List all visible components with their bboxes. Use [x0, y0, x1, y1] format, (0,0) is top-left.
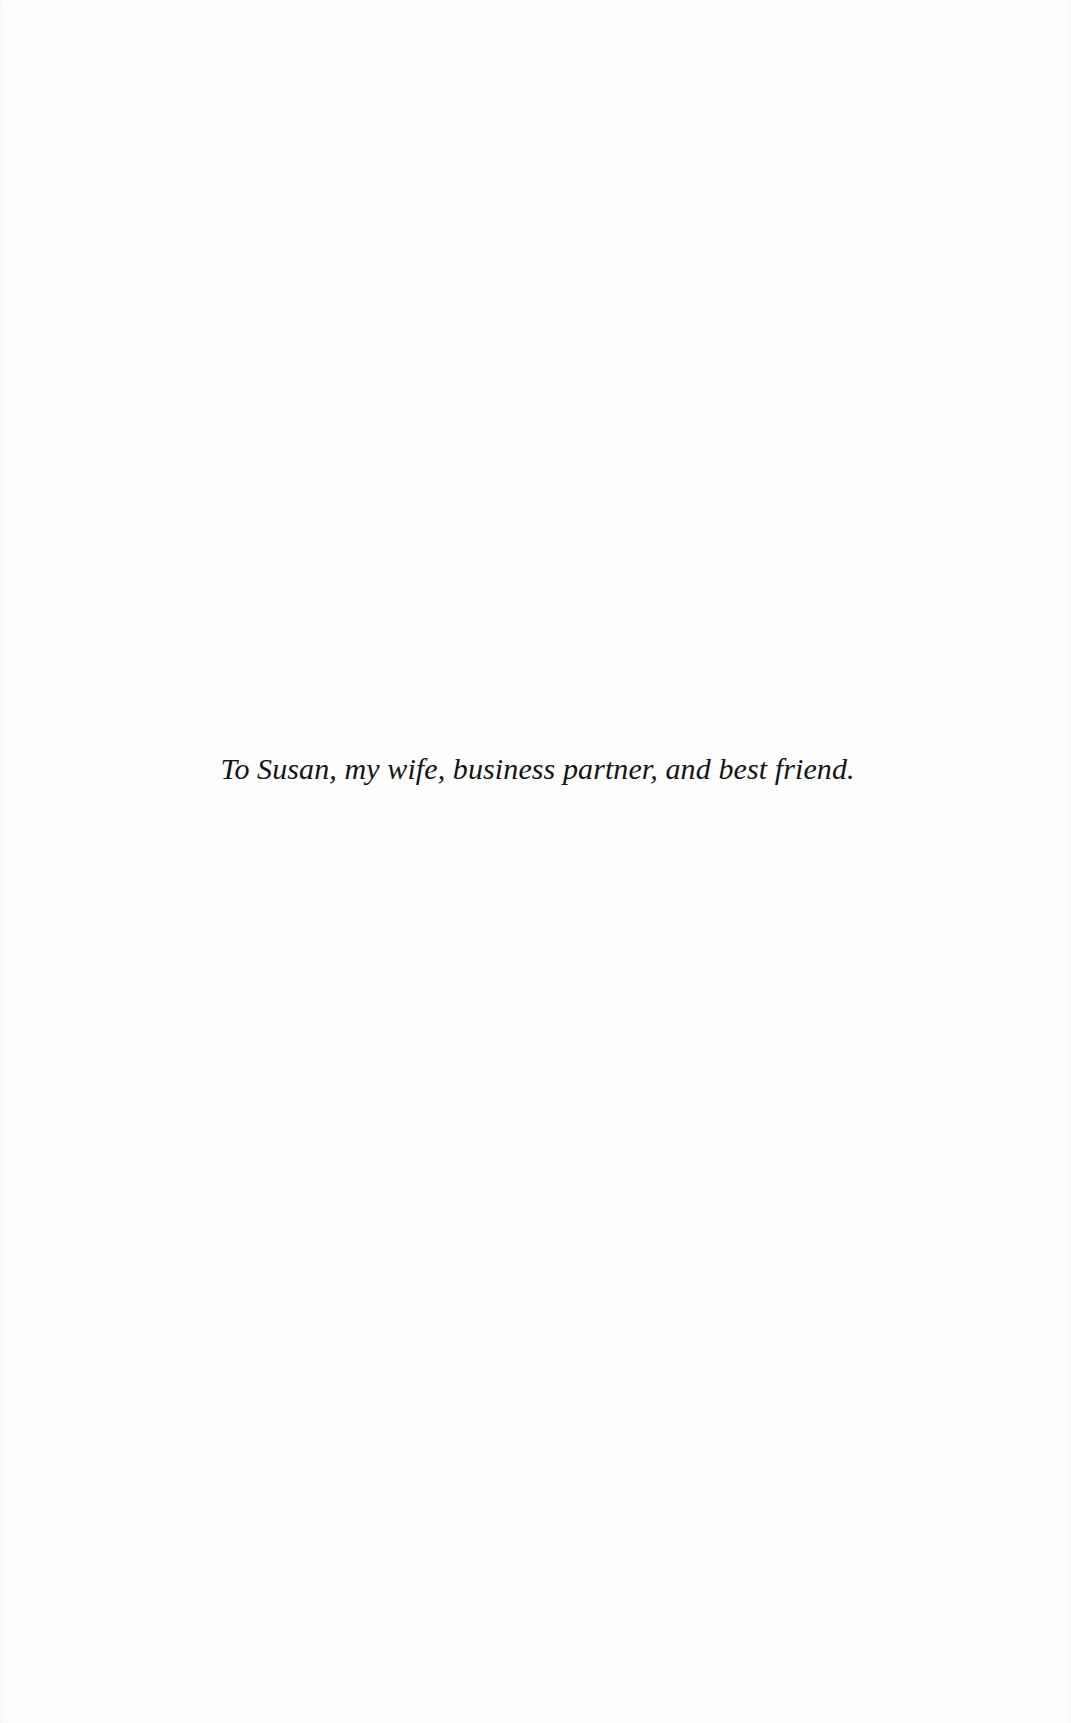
book-page: To Susan, my wife, business partner, and…: [0, 0, 1071, 1723]
dedication-text: To Susan, my wife, business partner, and…: [0, 752, 1071, 786]
